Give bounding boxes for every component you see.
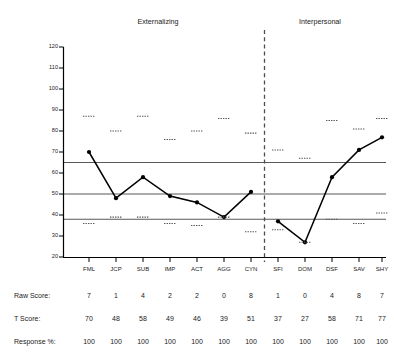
t-score-cell: 58: [319, 315, 345, 322]
y-tick-marks: [59, 47, 64, 257]
x-tick-label-agg: AGG: [209, 266, 239, 272]
t-score-cell: 46: [184, 315, 210, 322]
response-pct-cell: 100: [265, 338, 291, 345]
response-pct-cell: 100: [157, 338, 183, 345]
row-label-response-pct: Response %:: [14, 338, 56, 345]
x-tick-label-jcp: JCP: [101, 266, 131, 272]
response-pct-cell: 100: [238, 338, 264, 345]
raw-score-cell: 0: [211, 292, 237, 299]
series-line-interpersonal: [278, 137, 382, 242]
x-tick-label-imp: IMP: [155, 266, 185, 272]
x-tick-label-cyn: CYN: [236, 266, 266, 272]
raw-score-cell: 1: [103, 292, 129, 299]
raw-score-cell: 1: [265, 292, 291, 299]
x-tick-marks: [89, 258, 382, 263]
error-marks-upper: [83, 116, 388, 158]
raw-score-cell: 4: [130, 292, 156, 299]
chart-svg: [0, 0, 394, 356]
series-line-externalizing: [89, 152, 251, 217]
raw-score-cell: 2: [157, 292, 183, 299]
series-markers-interpersonal: [276, 135, 384, 244]
row-label-raw-score: Raw Score:: [14, 292, 50, 299]
response-pct-cell: 100: [76, 338, 102, 345]
response-pct-cell: 100: [292, 338, 318, 345]
raw-score-cell: 7: [369, 292, 394, 299]
x-tick-label-sfi: SFI: [263, 266, 293, 272]
response-pct-cell: 100: [184, 338, 210, 345]
raw-score-cell: 0: [292, 292, 318, 299]
row-label-t-score: T Score:: [14, 315, 40, 322]
t-score-cell: 48: [103, 315, 129, 322]
t-score-cell: 27: [292, 315, 318, 322]
x-tick-label-sub: SUB: [128, 266, 158, 272]
t-score-cell: 39: [211, 315, 237, 322]
raw-score-cell: 7: [76, 292, 102, 299]
x-tick-label-act: ACT: [182, 266, 212, 272]
response-pct-cell: 100: [211, 338, 237, 345]
response-pct-cell: 100: [130, 338, 156, 345]
raw-score-cell: 8: [238, 292, 264, 299]
series-markers-externalizing: [87, 150, 253, 219]
x-tick-label-shy: SHY: [367, 266, 394, 272]
x-tick-label-dsf: DSF: [317, 266, 347, 272]
raw-score-cell: 2: [184, 292, 210, 299]
x-tick-label-fml: FML: [74, 266, 104, 272]
error-marks-lower: [83, 213, 388, 242]
x-tick-label-dom: DOM: [290, 266, 320, 272]
profile-chart-panel: Externalizing Interpersonal 120 110 100 …: [0, 0, 394, 356]
response-pct-cell: 100: [369, 338, 394, 345]
t-score-cell: 70: [76, 315, 102, 322]
response-pct-cell: 100: [103, 338, 129, 345]
response-pct-cell: 100: [319, 338, 345, 345]
t-score-cell: 51: [238, 315, 264, 322]
t-score-cell: 37: [265, 315, 291, 322]
t-score-cell: 58: [130, 315, 156, 322]
raw-score-cell: 4: [319, 292, 345, 299]
t-score-cell: 77: [369, 315, 394, 322]
t-score-cell: 49: [157, 315, 183, 322]
